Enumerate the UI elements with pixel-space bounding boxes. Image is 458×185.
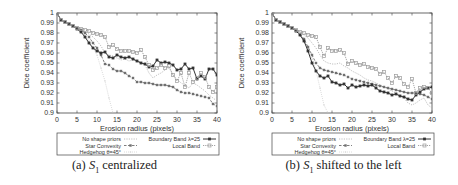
x-axis-label: Erosion radius (pixels) bbox=[100, 124, 175, 133]
caption-label: (a) bbox=[72, 158, 86, 172]
y-tick-label: 0.91 bbox=[255, 99, 269, 106]
x-tick-label: 15 bbox=[113, 116, 121, 123]
plot-frame bbox=[57, 13, 217, 113]
legend-label: Local Band bbox=[387, 143, 415, 149]
caption-subscript: 1 bbox=[309, 166, 313, 175]
y-tick-label: 0.92 bbox=[40, 89, 54, 96]
x-tick-label: 25 bbox=[368, 116, 376, 123]
legend-label: Boundary Band λ=25 bbox=[148, 136, 200, 142]
y-tick-label: 0.94 bbox=[255, 69, 269, 76]
series-star-convexity bbox=[271, 12, 433, 100]
series-star-convexity bbox=[56, 12, 218, 107]
chart-b: 0.90.910.920.930.940.950.960.970.980.991… bbox=[229, 0, 458, 160]
plot-series bbox=[271, 12, 434, 114]
y-tick-label: 1 bbox=[50, 9, 54, 16]
x-axis-label: Erosion radius (pixels) bbox=[315, 124, 390, 133]
x-tick-label: 0 bbox=[55, 116, 59, 123]
x-tick-label: 5 bbox=[290, 116, 294, 123]
figure-b: 0.90.910.920.930.940.950.960.970.980.991… bbox=[229, 0, 458, 185]
x-tick-label: 35 bbox=[408, 116, 416, 123]
y-tick-label: 0.96 bbox=[40, 49, 54, 56]
x-tick-label: 10 bbox=[308, 116, 316, 123]
legend-label: No shape priors bbox=[82, 136, 121, 142]
y-tick-label: 0.92 bbox=[255, 89, 269, 96]
y-tick-label: 0.91 bbox=[40, 99, 54, 106]
y-tick-label: 1 bbox=[265, 9, 269, 16]
y-tick-label: 0.94 bbox=[40, 69, 54, 76]
x-tick-label: 0 bbox=[270, 116, 274, 123]
caption-text: centralized bbox=[102, 158, 157, 172]
chart-a: 0.90.910.920.930.940.950.960.970.980.991… bbox=[0, 0, 229, 160]
legend-label: Star Convexity bbox=[300, 143, 336, 149]
x-tick-label: 10 bbox=[93, 116, 101, 123]
y-tick-label: 0.95 bbox=[255, 59, 269, 66]
y-tick-label: 0.98 bbox=[255, 29, 269, 36]
series-boundary-band-25 bbox=[271, 12, 434, 102]
x-tick-label: 40 bbox=[428, 116, 436, 123]
x-tick-label: 30 bbox=[173, 116, 181, 123]
figure-a: 0.90.910.920.930.940.950.960.970.980.991… bbox=[0, 0, 229, 185]
legend-label: Hedgehog θ=45° bbox=[80, 149, 122, 155]
y-tick-label: 0.97 bbox=[40, 39, 54, 46]
x-tick-label: 5 bbox=[75, 116, 79, 123]
y-tick-label: 0.99 bbox=[255, 19, 269, 26]
legend-label: Boundary Band λ=25 bbox=[363, 136, 415, 142]
caption-a: (a) S1 centralized bbox=[0, 158, 229, 175]
x-tick-label: 25 bbox=[153, 116, 161, 123]
legend-label: Hedgehog θ=45° bbox=[295, 149, 337, 155]
x-tick-label: 20 bbox=[348, 116, 356, 123]
y-tick-label: 0.97 bbox=[255, 39, 269, 46]
series-boundary-band-25 bbox=[56, 12, 219, 81]
series-local-band bbox=[271, 12, 434, 95]
y-tick-label: 0.93 bbox=[255, 79, 269, 86]
plot-series bbox=[56, 12, 219, 114]
y-tick-label: 0.95 bbox=[40, 59, 54, 66]
caption-subscript: 1 bbox=[95, 166, 99, 175]
y-tick-label: 0.96 bbox=[255, 49, 269, 56]
y-tick-label: 0.9 bbox=[44, 109, 54, 116]
series-hedgehog-45- bbox=[271, 13, 329, 113]
caption-label: (b) bbox=[285, 158, 300, 172]
caption-b: (b) S1 shifted to the left bbox=[229, 158, 458, 175]
x-tick-label: 15 bbox=[328, 116, 336, 123]
x-tick-label: 35 bbox=[193, 116, 201, 123]
y-tick-label: 0.99 bbox=[40, 19, 54, 26]
y-tick-label: 0.98 bbox=[40, 29, 54, 36]
y-axis-label: Dice coefficient bbox=[22, 37, 31, 89]
caption-text: shifted to the left bbox=[317, 158, 402, 172]
y-tick-label: 0.9 bbox=[259, 109, 269, 116]
x-tick-label: 40 bbox=[213, 116, 221, 123]
legend-label: Star Convexity bbox=[85, 143, 121, 149]
legend-label: No shape priors bbox=[297, 136, 336, 142]
series-no-shape-priors bbox=[57, 13, 217, 101]
x-tick-label: 20 bbox=[133, 116, 141, 123]
legend-label: Local Band bbox=[172, 143, 200, 149]
y-tick-label: 0.93 bbox=[40, 79, 54, 86]
x-tick-label: 30 bbox=[388, 116, 396, 123]
y-axis-label: Dice coefficient bbox=[237, 37, 246, 89]
